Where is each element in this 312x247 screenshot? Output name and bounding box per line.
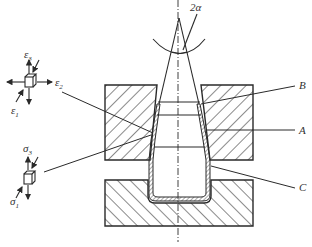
label-epsilon-2: ε2 bbox=[55, 77, 63, 93]
label-sigma-1: σ1 bbox=[10, 196, 19, 212]
rotation-arrow-right bbox=[172, 39, 205, 53]
diagram-canvas: 2α B A C ε3 ε2 ε1 σ3 σ1 bbox=[0, 0, 312, 247]
workpiece-cup bbox=[149, 104, 210, 201]
label-C: C bbox=[299, 182, 306, 193]
label-epsilon-1: ε1 bbox=[11, 105, 19, 121]
label-epsilon-3: ε3 bbox=[24, 49, 32, 65]
diagram-svg bbox=[0, 0, 312, 247]
spinning-cone-tool bbox=[153, 14, 205, 104]
stress-element bbox=[16, 157, 38, 199]
label-B: B bbox=[299, 80, 306, 91]
angle-leader bbox=[183, 14, 197, 50]
label-A: A bbox=[299, 125, 306, 136]
angle-label: 2α bbox=[190, 2, 201, 13]
label-sigma-3: σ3 bbox=[23, 143, 32, 159]
rotation-arrow-left bbox=[153, 39, 187, 53]
upper-die bbox=[105, 85, 253, 160]
strain-element bbox=[7, 60, 52, 104]
lower-die bbox=[105, 180, 253, 226]
leader-lines bbox=[44, 86, 295, 188]
